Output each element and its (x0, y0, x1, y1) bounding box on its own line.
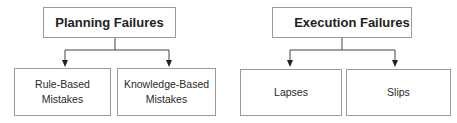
execution-connector (287, 37, 398, 67)
knowledge-based-label-line1: Knowledge-Based (124, 77, 209, 92)
execution-failures-label: Execution Failures (294, 15, 410, 30)
slips-label: Slips (387, 85, 410, 100)
rule-based-label-line1: Rule-Based (35, 77, 90, 92)
rule-based-label-line2: Mistakes (35, 92, 90, 107)
knowledge-based-mistakes-node: Knowledge-Based Mistakes (117, 68, 216, 116)
planning-failures-node: Planning Failures (43, 7, 176, 38)
execution-failures-node: Execution Failures (272, 7, 412, 38)
rule-based-mistakes-node: Rule-Based Mistakes (14, 68, 111, 116)
arrowhead-icon (392, 60, 398, 67)
slips-node: Slips (346, 69, 451, 116)
planning-failures-label: Planning Failures (55, 15, 163, 30)
lapses-node: Lapses (240, 69, 342, 116)
arrowhead-icon (166, 60, 172, 67)
arrowhead-icon (287, 60, 293, 67)
lapses-label: Lapses (274, 85, 308, 100)
arrowhead-icon (62, 60, 68, 67)
planning-connector (62, 37, 172, 67)
knowledge-based-label-line2: Mistakes (124, 92, 209, 107)
